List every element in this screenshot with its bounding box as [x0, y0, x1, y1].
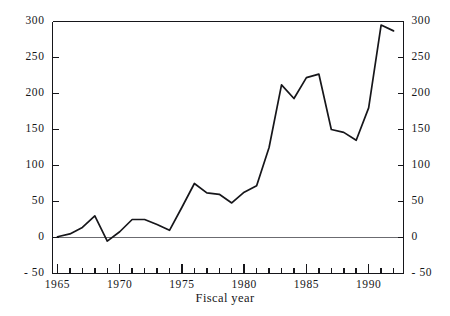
axis-tick-marks [53, 58, 404, 274]
x-axis-title: Fiscal year [0, 291, 450, 306]
y-axis-tick-label-right: - 50 [412, 266, 433, 278]
x-axis-tick-label: 1990 [339, 278, 399, 290]
y-axis-tick-label-left: 300 [2, 14, 45, 26]
line-chart-plot [0, 0, 450, 316]
chart-figure: - 50- 5000505010010015015020020025025030… [0, 0, 450, 316]
x-axis-tick-label: 1975 [152, 278, 212, 290]
data-series-line [57, 25, 393, 241]
y-axis-tick-label-left: 0 [2, 230, 45, 242]
y-axis-tick-label-right: 0 [412, 230, 418, 242]
y-axis-tick-label-right: 100 [412, 158, 431, 170]
y-axis-tick-label-left: 100 [2, 158, 45, 170]
x-axis-tick-label: 1980 [214, 278, 274, 290]
x-axis-tick-label: 1985 [276, 278, 336, 290]
y-axis-tick-label-right: 300 [412, 14, 431, 26]
y-axis-tick-label-left: - 50 [2, 266, 45, 278]
y-axis-tick-label-right: 150 [412, 122, 431, 134]
y-axis-tick-label-left: 150 [2, 122, 45, 134]
x-axis-tick-label: 1965 [27, 278, 87, 290]
y-axis-tick-label-right: 50 [412, 194, 425, 206]
y-axis-tick-label-left: 250 [2, 50, 45, 62]
y-axis-tick-label-left: 50 [2, 194, 45, 206]
y-axis-tick-label-left: 200 [2, 86, 45, 98]
y-axis-tick-label-right: 250 [412, 50, 431, 62]
y-axis-tick-label-right: 200 [412, 86, 431, 98]
x-axis-tick-label: 1970 [90, 278, 150, 290]
